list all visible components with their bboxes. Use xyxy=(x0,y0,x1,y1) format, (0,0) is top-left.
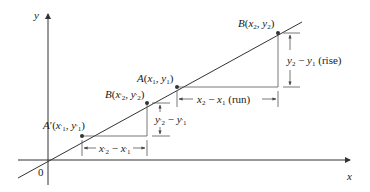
point-a-prime xyxy=(80,134,84,138)
point-b xyxy=(276,31,280,35)
label-b-prime: B(x′2, y′2) xyxy=(105,88,145,102)
label-small-rise: y′2 − y′1 xyxy=(154,113,187,127)
label-a: A(x1, y1) xyxy=(136,72,174,86)
line-l xyxy=(18,22,302,178)
y-axis-label: y xyxy=(33,9,39,21)
label-small-run: x′2 − x′1 xyxy=(98,142,131,156)
point-b-prime xyxy=(145,101,149,105)
label-rise: y2 − y1 (rise) xyxy=(286,54,342,68)
label-b: B(x2, y2) xyxy=(238,17,275,31)
slope-diagram: x y 0 A′(x′1, y′1) xyxy=(0,0,370,192)
x-axis-label: x xyxy=(346,170,352,182)
label-run: x2 − x1 (run) xyxy=(196,93,251,107)
label-a-prime: A′(x′1, y′1) xyxy=(42,119,85,133)
origin-label: 0 xyxy=(38,166,44,178)
point-a xyxy=(175,85,179,89)
